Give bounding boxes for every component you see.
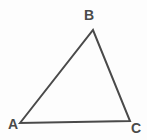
vertex-label-c: C bbox=[131, 121, 141, 135]
vertex-label-a: A bbox=[8, 117, 18, 131]
triangle-shape bbox=[20, 30, 130, 123]
triangle-diagram bbox=[0, 0, 147, 140]
triangle-figure: A B C bbox=[0, 0, 147, 140]
vertex-label-b: B bbox=[84, 8, 94, 22]
